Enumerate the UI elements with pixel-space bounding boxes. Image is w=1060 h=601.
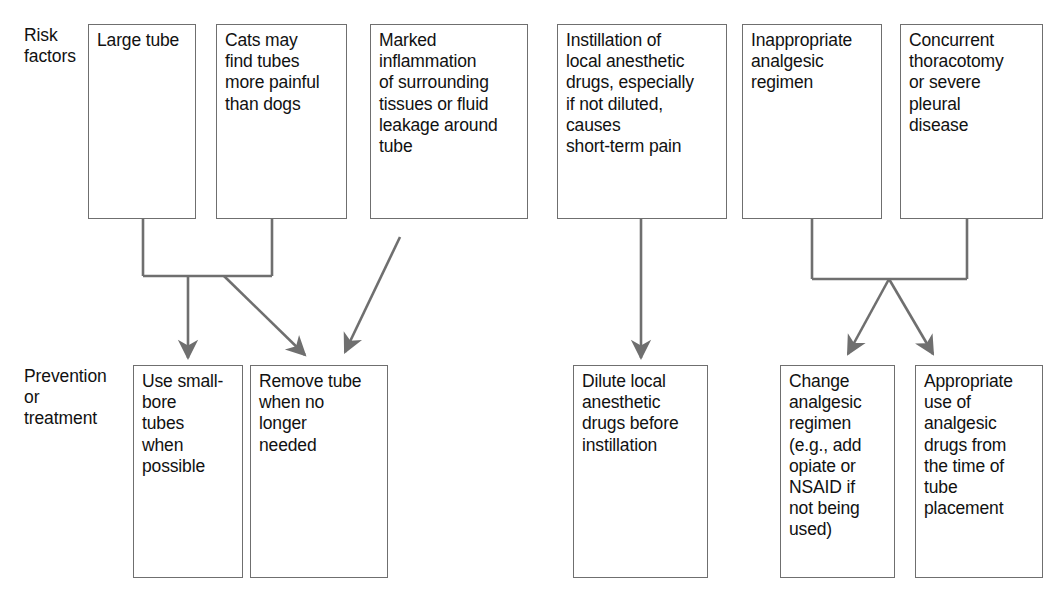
treatment-box-dilute-local-anesthetic[interactable]: Dilute local anesthetic drugs before ins… <box>573 365 708 578</box>
treatment-box-use-small-bore-tubes[interactable]: Use small- bore tubes when possible <box>133 365 243 578</box>
risk-box-marked-inflammation[interactable]: Marked inflammation of surrounding tissu… <box>370 24 528 219</box>
risk-box-inappropriate-analgesic-regimen[interactable]: Inappropriate analgesic regimen <box>742 24 882 219</box>
treatment-box-appropriate-use-analgesic[interactable]: Appropriate use of analgesic drugs from … <box>915 365 1043 578</box>
diagram-canvas: Risk factors Prevention or treatment Lar… <box>0 0 1060 601</box>
risk-box-concurrent-thoracotomy[interactable]: Concurrent thoracotomy or severe pleural… <box>900 24 1043 219</box>
treatment-box-remove-tube-when-no-longer-needed[interactable]: Remove tube when no longer needed <box>250 365 388 578</box>
arrow-to-change-analgesic-regimen <box>848 279 889 354</box>
risk-box-cats-more-painful[interactable]: Cats may find tubes more painful than do… <box>216 24 347 219</box>
risk-box-large-tube[interactable]: Large tube <box>88 24 196 219</box>
row-label-prevention-or-treatment: Prevention or treatment <box>24 366 107 429</box>
risk-box-instillation-local-anesthetic[interactable]: Instillation of local anesthetic drugs, … <box>557 24 727 219</box>
row-label-risk-factors: Risk factors <box>24 25 76 67</box>
arrow-to-appropriate-use-analgesic <box>889 279 933 354</box>
arrow-bracket-to-remove-tube <box>224 276 305 355</box>
arrow-inflammation-to-remove-tube <box>345 237 400 352</box>
treatment-box-change-analgesic-regimen[interactable]: Change analgesic regimen (e.g., add opia… <box>780 365 895 578</box>
